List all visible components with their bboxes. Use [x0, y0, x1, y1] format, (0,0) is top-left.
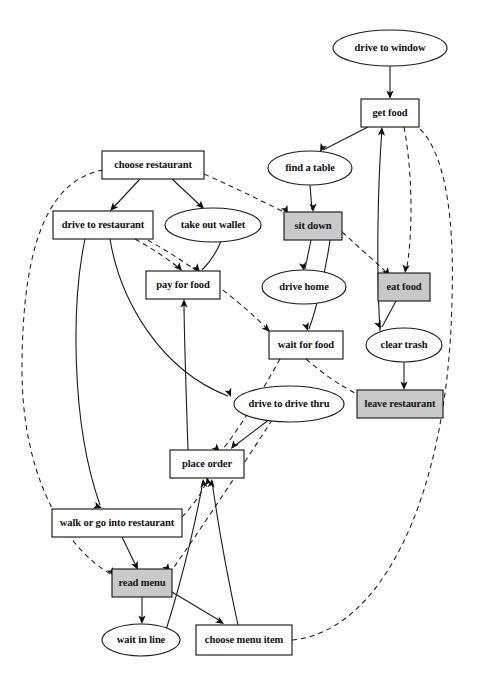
edge-choose_menu_item-to-place_order — [208, 479, 238, 625]
node-find_a_table[interactable]: find a table — [268, 151, 352, 185]
edge-sit_down-to-eat_food — [342, 232, 393, 278]
node-label: wait in line — [117, 634, 166, 645]
edge-path — [202, 241, 221, 270]
edge-drive_to_window-to-get_food — [386, 66, 393, 99]
node-label: wait for food — [278, 339, 335, 350]
node-label: sit down — [295, 220, 332, 231]
node-drive_to_window[interactable]: drive to window — [333, 30, 447, 66]
node-label: walk or go into restaurant — [60, 517, 175, 528]
edge-path — [112, 179, 140, 209]
node-label: find a table — [285, 162, 335, 173]
node-label: take out wallet — [181, 219, 246, 230]
node-wait_for_food[interactable]: wait for food — [269, 331, 343, 359]
edge-clear_trash-to-leave_restaurant — [400, 362, 407, 390]
node-get_food[interactable]: get food — [361, 99, 419, 127]
diagram-canvas: drive to windowget foodfind a tablechoos… — [0, 0, 490, 691]
nodes-layer: drive to windowget foodfind a tablechoos… — [52, 30, 447, 656]
edge-take_out_wallet-to-pay_for_food — [192, 241, 221, 274]
node-label: eat food — [386, 281, 421, 292]
edge-get_food-to-find_a_table — [317, 127, 368, 154]
node-choose_menu_item[interactable]: choose menu item — [196, 625, 292, 655]
edge-path — [172, 420, 272, 570]
edge-eat_food-to-clear_trash — [374, 301, 396, 331]
node-label: leave restaurant — [365, 398, 436, 409]
edge-drive_to_restaurant-to-walk_or_go_into — [76, 239, 103, 511]
edge-get_food-to-eat_food — [401, 127, 411, 274]
edge-path — [233, 419, 270, 447]
edge-drive_to_restaurant-to-pay_for_food — [135, 239, 185, 273]
arrowhead — [401, 264, 409, 273]
edge-walk_or_go_into-to-read_menu — [122, 537, 141, 572]
node-pay_for_food[interactable]: pay for food — [146, 271, 220, 299]
node-take_out_wallet[interactable]: take out wallet — [165, 208, 261, 242]
edge-place_order-to-pay_for_food — [180, 299, 188, 450]
edge-drive_to_drive_thru-to-place_order — [228, 419, 270, 451]
node-label: choose menu item — [205, 634, 284, 645]
node-place_order[interactable]: place order — [170, 450, 244, 478]
edge-sit_down-to-drive_home — [299, 240, 311, 272]
node-eat_food[interactable]: eat food — [378, 273, 430, 301]
edge-path — [342, 232, 388, 274]
node-leave_restaurant[interactable]: leave restaurant — [357, 390, 443, 418]
node-label: get food — [372, 107, 407, 118]
node-sit_down[interactable]: sit down — [284, 212, 342, 240]
edge-read_menu-to-choose_menu_item — [172, 592, 226, 627]
node-read_menu[interactable]: read menu — [112, 569, 172, 597]
edge-path — [292, 120, 452, 640]
node-label: drive to window — [355, 42, 426, 53]
node-label: clear trash — [381, 339, 428, 350]
edge-find_a_table-to-sit_down — [309, 185, 316, 212]
node-drive_to_drive_thru[interactable]: drive to drive thru — [234, 386, 344, 422]
node-label: drive home — [279, 281, 329, 292]
node-wait_in_line[interactable]: wait in line — [102, 624, 180, 656]
edge-path — [404, 127, 411, 271]
node-label: drive to restaurant — [62, 219, 145, 230]
flow-graph: drive to windowget foodfind a tablechoos… — [0, 0, 490, 691]
edge-path — [323, 127, 368, 150]
node-choose_restaurant[interactable]: choose restaurant — [102, 151, 204, 179]
edge-path — [110, 239, 228, 396]
node-walk_or_go_into[interactable]: walk or go into restaurant — [52, 509, 182, 537]
edge-path — [212, 481, 238, 625]
node-clear_trash[interactable]: clear trash — [366, 328, 442, 362]
arrowhead — [309, 204, 316, 212]
edge-drive_to_drive_thru-to-read_menu — [162, 420, 272, 574]
edge-path — [184, 301, 188, 450]
edge-path — [305, 240, 311, 269]
edge-path — [382, 301, 396, 327]
edge-choose_restaurant-to-drive_to_restaurant — [107, 179, 140, 213]
edge-drive_to_restaurant-to-drive_to_drive_thru — [110, 239, 234, 398]
edge-path — [122, 537, 137, 568]
edge-choose_restaurant-to-take_out_wallet — [172, 179, 207, 211]
node-label: read menu — [118, 577, 165, 588]
node-label: choose restaurant — [114, 159, 192, 170]
node-label: place order — [182, 458, 232, 469]
node-label: drive to drive thru — [248, 398, 329, 409]
node-drive_to_restaurant[interactable]: drive to restaurant — [53, 211, 153, 239]
edge-path — [172, 179, 202, 207]
node-drive_home[interactable]: drive home — [262, 270, 346, 304]
edge-path — [172, 592, 222, 622]
edge-path — [135, 239, 180, 269]
edge-wait_in_line-to-place_order — [166, 479, 207, 630]
edge-path — [76, 239, 100, 505]
node-label: pay for food — [156, 279, 210, 290]
arrowhead — [225, 388, 235, 398]
edge-choose_menu_item-to-get_food — [292, 116, 452, 640]
edge-path — [204, 174, 286, 213]
edge-read_menu-to-wait_in_line — [138, 597, 145, 624]
